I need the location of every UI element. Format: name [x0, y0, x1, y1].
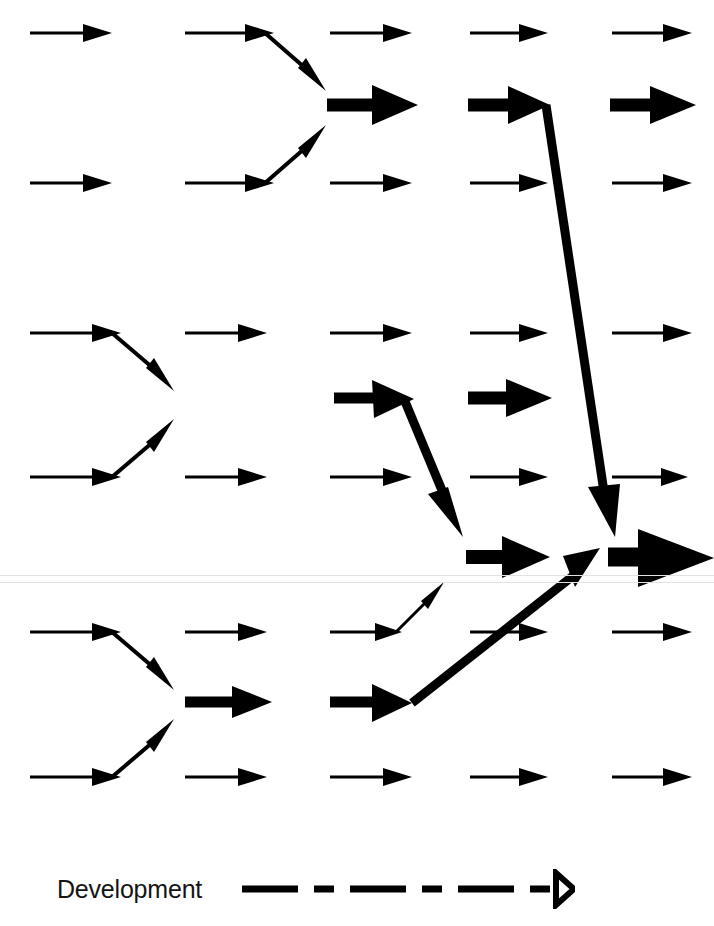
arrow-c2r4	[185, 468, 267, 486]
arrow-c2r3	[185, 324, 267, 342]
arrow-c2r2	[185, 125, 326, 192]
arrow-c2r6	[185, 686, 272, 718]
arrow-c5r7	[612, 623, 692, 641]
arrow-c4r1	[470, 24, 548, 42]
arrow-c5r1	[612, 24, 692, 42]
legend-dash-dot-arrow-icon	[240, 869, 575, 909]
arrow-c1r3	[30, 324, 174, 391]
figure-root: Development	[0, 0, 714, 926]
arrow-c3r3	[330, 174, 412, 192]
arrow-c5r5	[612, 468, 688, 486]
arrow-c1r6	[30, 719, 174, 786]
arrow-c4r3	[470, 174, 548, 192]
arrow-c1r4	[30, 419, 174, 486]
arrow-c4r5	[468, 379, 552, 417]
arrow-c3r2	[327, 85, 418, 125]
arrow-c2r7	[185, 768, 267, 786]
arrow-c3r8	[330, 548, 600, 722]
arrow-c4r6	[470, 468, 548, 486]
arrow-c5r2	[610, 86, 696, 124]
vector-field-canvas	[0, 0, 714, 926]
arrow-c1r1	[30, 24, 112, 42]
arrow-c3r9	[330, 768, 412, 786]
arrow-c1r2	[30, 174, 112, 192]
arrow-c3r4	[330, 324, 412, 342]
legend-label-development: Development	[57, 875, 202, 904]
arrow-c4r7	[466, 536, 550, 578]
arrow-c3r1	[330, 24, 412, 42]
arrow-c5r6	[608, 529, 714, 587]
arrow-c5r3	[612, 174, 692, 192]
arrow-c1r5	[30, 623, 174, 690]
arrow-c3r6	[330, 468, 412, 486]
arrow-c3r5	[334, 380, 463, 537]
arrow-c3r7	[330, 582, 444, 641]
legend-symbol	[240, 869, 575, 909]
arrow-c4r9	[470, 768, 548, 786]
arrow-c5r4	[612, 324, 692, 342]
arrow-c4r4	[470, 324, 548, 342]
arrow-c4r2	[468, 86, 620, 537]
arrow-c5r8	[612, 768, 692, 786]
arrow-c2r1	[185, 24, 326, 91]
legend: Development	[0, 852, 714, 926]
arrow-c2r5	[185, 623, 267, 641]
